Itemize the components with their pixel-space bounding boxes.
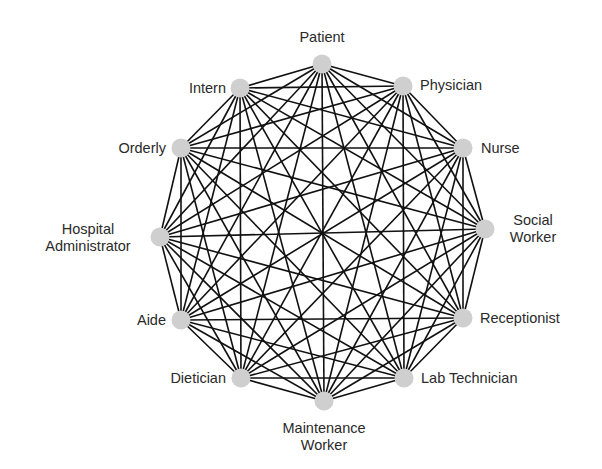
edge-social-receptionist [463, 229, 485, 318]
label-patient: Patient [292, 29, 352, 46]
node-social [476, 220, 495, 239]
node-nurse [454, 139, 473, 158]
edge-hospadmin-orderly [160, 148, 181, 237]
edge-dietician-intern [240, 88, 241, 378]
edge-patient-orderly [181, 64, 322, 148]
edge-labtech-maintenance [324, 378, 404, 401]
label-intern: Intern [170, 80, 226, 97]
label-dietician: Dietician [140, 370, 226, 387]
edge-receptionist-aide [181, 318, 463, 320]
label-maintenance-worker: Maintenance Worker [264, 420, 384, 454]
edge-social-intern [240, 88, 485, 229]
node-labtech [395, 369, 414, 388]
node-receptionist [454, 309, 473, 328]
label-hospadmin-line1: Hospital [30, 221, 146, 238]
label-social-worker: Social Worker [503, 212, 563, 246]
edge-hospadmin-intern [160, 88, 240, 237]
label-social-worker-line2: Worker [503, 229, 563, 246]
edges [160, 64, 485, 401]
edge-aide-hospadmin [160, 237, 181, 320]
edge-nurse-intern [240, 88, 463, 148]
label-hospadmin-line2: Administrator [30, 238, 146, 255]
label-orderly: Orderly [100, 140, 166, 157]
node-patient [313, 55, 332, 74]
node-aide [172, 311, 191, 330]
node-physician [394, 77, 413, 96]
edge-patient-physician [322, 64, 403, 86]
label-maintenance-line1: Maintenance [264, 420, 384, 437]
node-dietician [232, 369, 251, 388]
edge-dietician-hospadmin [160, 237, 241, 378]
node-intern [231, 79, 250, 98]
label-receptionist: Receptionist [480, 310, 560, 327]
label-maintenance-line2: Worker [264, 437, 384, 454]
label-nurse: Nurse [481, 140, 520, 157]
label-lab-technician: Lab Technician [421, 370, 517, 387]
edge-physician-intern [240, 86, 403, 88]
label-hospital-administrator: Hospital Administrator [30, 221, 146, 255]
label-aide: Aide [120, 312, 166, 329]
node-hospadmin [151, 228, 170, 247]
node-maintenance [315, 392, 334, 411]
label-physician: Physician [420, 77, 482, 94]
node-orderly [172, 139, 191, 158]
label-social-worker-line1: Social [503, 212, 563, 229]
